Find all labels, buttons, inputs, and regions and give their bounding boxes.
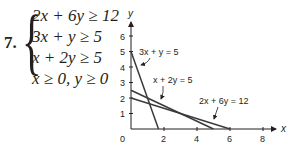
graph: x y 0 2 4 6 8 1 2 3 4 5 6 3x + y = 5 x +… [0, 0, 290, 155]
y-tick-6: 6 [120, 32, 125, 42]
origin-label: 0 [120, 134, 125, 144]
y-tick-3: 3 [120, 78, 125, 88]
arrow-3x-plus-y [141, 58, 150, 65]
y-tick-5: 5 [120, 47, 125, 57]
label-x-plus-2y-eq-5: x + 2y = 5 [153, 75, 193, 85]
y-tick-2: 2 [120, 94, 125, 104]
x-tick-6: 6 [227, 134, 232, 144]
x-axis-label: x [280, 123, 287, 134]
y-tick-1: 1 [120, 109, 125, 119]
label-2x-plus-6y-eq-12: 2x + 6y = 12 [199, 96, 249, 106]
x-tick-4: 4 [194, 134, 199, 144]
label-3x-plus-y-eq-5: 3x + y = 5 [139, 47, 179, 57]
arrow-2x-plus-6y [214, 107, 218, 119]
x-ticks: 0 2 4 6 8 [120, 127, 265, 144]
y-axis-label: y [127, 8, 134, 19]
y-tick-4: 4 [120, 63, 125, 73]
arrow-x-plus-2y [161, 86, 163, 99]
x-tick-8: 8 [260, 134, 265, 144]
x-tick-2: 2 [161, 134, 166, 144]
